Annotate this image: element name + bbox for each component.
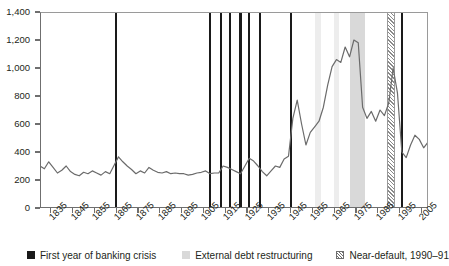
legend-label: First year of banking crisis [40, 250, 156, 261]
plot-area [40, 12, 428, 208]
y-tick-label: 1,200 [6, 35, 30, 45]
y-tick-label: 800 [14, 91, 30, 101]
legend-label: Near-default, 1990–91 [349, 250, 449, 261]
y-tick-label: 1,400 [6, 7, 30, 17]
y-tick-label: 0 [25, 203, 30, 213]
debt-restructuring-swatch [182, 251, 190, 259]
y-tick-label: 200 [14, 175, 30, 185]
chart-legend: First year of banking crisisExternal deb… [0, 246, 433, 264]
y-tick-label: 600 [14, 119, 30, 129]
y-tick-label: 400 [14, 147, 30, 157]
legend-item: Near-default, 1990–91 [336, 250, 449, 261]
y-axis: 02004006008001,0001,2001,400 [0, 0, 40, 220]
legend-item: First year of banking crisis [27, 250, 156, 261]
legend-item: External debt restructuring [182, 250, 312, 261]
y-tick-label: 1,000 [6, 63, 30, 73]
near-default-swatch [336, 251, 344, 259]
series-line [40, 12, 428, 208]
legend-label: External debt restructuring [195, 250, 312, 261]
banking-crisis-swatch [27, 251, 35, 259]
